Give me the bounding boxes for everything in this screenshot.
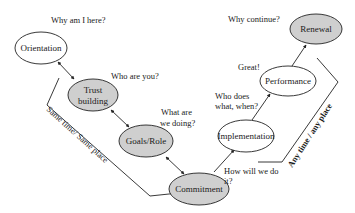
question-why-am-i-here: Why am I here?	[51, 15, 106, 25]
node-goals-role: Goals/Role	[119, 125, 173, 157]
team-performance-model-diagram: Orientation Trust building Goals/Role Co…	[0, 0, 355, 213]
node-commitment-label: Commitment	[175, 184, 223, 194]
performance-renewal-connector	[292, 45, 306, 66]
label-same-time-same-place: Same time/ Same place	[45, 104, 111, 165]
node-renewal: Renewal	[290, 14, 342, 44]
trust-goals-connector	[111, 110, 129, 127]
question-what-are-line2: we doing?	[160, 118, 195, 128]
node-performance: Performance	[260, 66, 316, 96]
node-commitment: Commitment	[169, 173, 229, 205]
label-any-time-any-place: Any time / any place	[285, 101, 334, 169]
question-why-continue: Why continue?	[228, 14, 280, 24]
node-goals-label: Goals/Role	[126, 136, 167, 146]
node-orientation: Orientation	[15, 32, 67, 64]
node-implementation: Implementation	[218, 120, 275, 152]
question-who-does-line2: what, when?	[215, 101, 258, 111]
question-how-will-we-do-line2: it?	[224, 176, 233, 186]
question-who-are-you: Who are you?	[111, 71, 159, 81]
question-great: Great!	[238, 62, 260, 72]
question-what-are-line1: What are	[161, 107, 192, 117]
question-who-does-line1: Who does	[215, 91, 249, 101]
node-implementation-label: Implementation	[218, 131, 275, 141]
node-trust-label-line2: building	[78, 96, 109, 106]
goals-commitment-connector	[166, 157, 184, 174]
node-orientation-label: Orientation	[21, 43, 62, 53]
orientation-trust-connector	[58, 62, 74, 79]
node-trust-building: Trust building	[68, 79, 118, 111]
question-how-will-we-do-line1: How will we do	[224, 166, 279, 176]
node-renewal-label: Renewal	[300, 24, 332, 34]
node-trust-label-line1: Trust	[84, 85, 103, 95]
node-performance-label: Performance	[265, 76, 311, 86]
